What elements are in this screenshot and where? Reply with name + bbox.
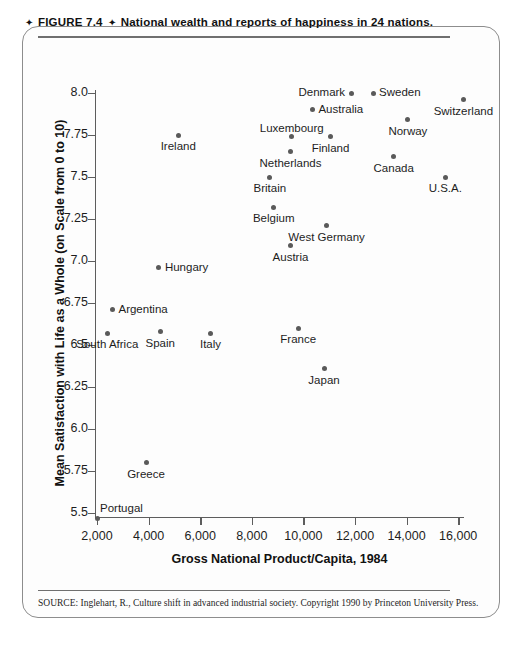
data-point-label: U.S.A. xyxy=(429,182,462,195)
data-point-label: Ireland xyxy=(161,140,196,153)
data-point[interactable] xyxy=(310,107,315,112)
data-point-label: Japan xyxy=(308,374,339,387)
data-point-label: Finland xyxy=(312,142,350,155)
data-point-label: Argentina xyxy=(118,303,167,316)
data-point[interactable] xyxy=(328,134,333,139)
source-note: SOURCE: Inglehart, R., Culture shift in … xyxy=(38,598,468,608)
data-point[interactable] xyxy=(156,265,161,270)
x-tick-mark xyxy=(200,517,201,525)
data-point-label: Spain xyxy=(145,337,174,350)
y-axis-title: Mean Satisfaction with Life as a Whole (… xyxy=(53,93,67,513)
data-point-label: Portugal xyxy=(100,502,143,515)
data-point-label: Australia xyxy=(318,103,363,116)
y-tick-mark xyxy=(88,219,96,220)
x-tick-mark xyxy=(458,517,459,525)
y-tick-mark xyxy=(88,429,96,430)
data-point[interactable] xyxy=(110,307,115,312)
x-tick-mark xyxy=(407,517,408,525)
data-point-label: Greece xyxy=(127,468,165,481)
x-tick-mark xyxy=(149,517,150,525)
y-tick-mark xyxy=(88,303,96,304)
data-point[interactable] xyxy=(289,134,294,139)
data-point[interactable] xyxy=(105,331,110,336)
data-point-label: Norway xyxy=(388,125,427,138)
data-point[interactable] xyxy=(349,91,354,96)
data-point-label: Canada xyxy=(374,162,414,175)
data-point-label: Italy xyxy=(200,338,221,351)
data-point-label: Denmark xyxy=(0,86,345,99)
data-point[interactable] xyxy=(158,329,163,334)
data-point[interactable] xyxy=(322,366,327,371)
y-tick-mark xyxy=(88,387,96,388)
data-point[interactable] xyxy=(288,243,293,248)
x-tick-label: 16,000 xyxy=(428,529,488,543)
data-point-label: Hungary xyxy=(165,261,208,274)
y-tick-mark xyxy=(88,471,96,472)
x-axis-title: Gross National Product/Capita, 1984 xyxy=(95,552,464,566)
x-tick-mark xyxy=(355,517,356,525)
data-point[interactable] xyxy=(443,175,448,180)
data-point[interactable] xyxy=(271,205,276,210)
y-tick-mark xyxy=(88,261,96,262)
data-point-label: Sweden xyxy=(379,86,421,99)
y-tick-mark xyxy=(88,135,96,136)
data-point-label: South Africa xyxy=(76,338,138,351)
data-point-label: Austria xyxy=(273,251,309,264)
source-divider xyxy=(38,590,450,591)
data-point[interactable] xyxy=(391,154,396,159)
data-point-label: Netherlands xyxy=(259,157,321,170)
data-point[interactable] xyxy=(208,331,213,336)
x-tick-mark xyxy=(303,517,304,525)
data-point[interactable] xyxy=(324,223,329,228)
data-point[interactable] xyxy=(371,91,376,96)
data-point[interactable] xyxy=(405,117,410,122)
data-point[interactable] xyxy=(461,97,466,102)
data-point-label: France xyxy=(280,333,316,346)
data-point-label: West Germany xyxy=(288,231,364,244)
data-point[interactable] xyxy=(267,175,272,180)
y-tick-mark xyxy=(88,177,96,178)
data-point[interactable] xyxy=(176,133,181,138)
x-tick-mark xyxy=(252,517,253,525)
data-point[interactable] xyxy=(95,516,100,521)
data-point[interactable] xyxy=(288,149,293,154)
data-point-label: Luxembourg xyxy=(260,122,324,135)
y-tick-mark xyxy=(88,513,96,514)
x-axis-line xyxy=(95,517,464,518)
data-point[interactable] xyxy=(144,460,149,465)
scatter-plot: 5.55.756.06.256.56.757.07.257.57.758.0 2… xyxy=(0,0,522,650)
data-point-label: Belgium xyxy=(253,212,295,225)
data-point-label: Britain xyxy=(254,182,287,195)
data-point[interactable] xyxy=(296,326,301,331)
data-point-label: Switzerland xyxy=(434,105,493,118)
